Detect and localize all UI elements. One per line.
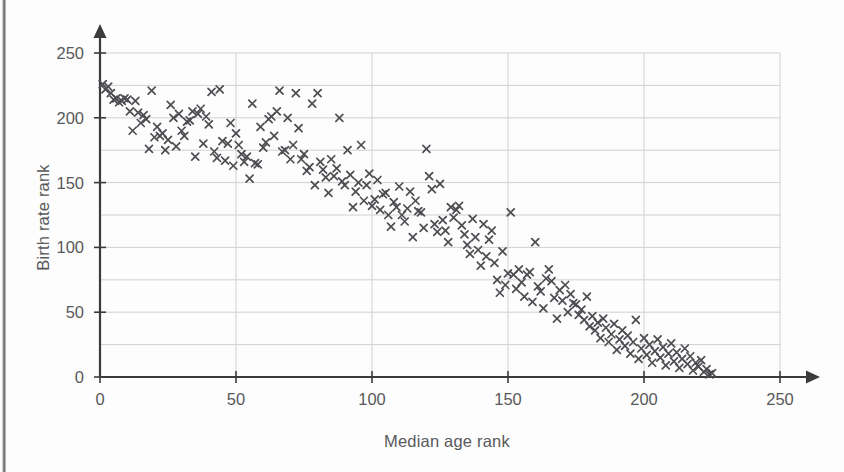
data-point-marker bbox=[472, 234, 479, 241]
data-points bbox=[99, 81, 715, 378]
data-point-marker bbox=[461, 231, 468, 238]
data-point-marker bbox=[352, 188, 359, 195]
data-point-marker bbox=[192, 153, 199, 160]
y-tick-label: 200 bbox=[56, 109, 84, 127]
data-point-marker bbox=[347, 171, 354, 178]
y-axis-title: Birth rate rank bbox=[34, 143, 53, 293]
data-point-marker bbox=[621, 342, 628, 349]
data-point-marker bbox=[632, 316, 639, 323]
data-point-marker bbox=[483, 253, 490, 260]
data-point-marker bbox=[445, 239, 452, 246]
data-point-marker bbox=[681, 345, 688, 352]
data-point-marker bbox=[317, 158, 324, 165]
data-point-marker bbox=[401, 218, 408, 225]
data-point-marker bbox=[306, 164, 313, 171]
data-point-marker bbox=[200, 140, 207, 147]
data-point-marker bbox=[167, 101, 174, 108]
data-point-marker bbox=[213, 154, 220, 161]
data-point-marker bbox=[227, 119, 234, 126]
data-point-marker bbox=[458, 222, 465, 229]
axis-ticks bbox=[94, 53, 780, 383]
y-tick-label: 50 bbox=[66, 303, 84, 321]
data-point-marker bbox=[662, 362, 669, 369]
data-point-marker bbox=[322, 174, 329, 181]
data-point-marker bbox=[148, 87, 155, 94]
data-point-marker bbox=[488, 227, 495, 234]
gridlines bbox=[100, 53, 780, 377]
data-point-marker bbox=[409, 234, 416, 241]
data-point-marker bbox=[396, 183, 403, 190]
data-point-marker bbox=[627, 350, 634, 357]
data-point-marker bbox=[426, 173, 433, 180]
x-tick-label: 250 bbox=[766, 390, 794, 408]
data-point-marker bbox=[485, 236, 492, 243]
data-point-marker bbox=[431, 221, 438, 228]
x-tick-label: 100 bbox=[358, 390, 386, 408]
x-tick-label: 0 bbox=[95, 390, 104, 408]
data-point-marker bbox=[165, 136, 172, 143]
data-point-marker bbox=[434, 228, 441, 235]
data-point-marker bbox=[540, 305, 547, 312]
data-point-marker bbox=[491, 259, 498, 266]
data-point-marker bbox=[657, 354, 664, 361]
data-point-marker bbox=[477, 262, 484, 269]
data-point-marker bbox=[314, 90, 321, 97]
data-point-marker bbox=[456, 202, 463, 209]
data-point-marker bbox=[287, 156, 294, 163]
data-point-marker bbox=[635, 355, 642, 362]
data-point-marker bbox=[526, 269, 533, 276]
y-tick-label: 0 bbox=[75, 368, 84, 386]
data-point-marker bbox=[211, 148, 218, 155]
y-tick-label: 100 bbox=[56, 238, 84, 256]
data-point-marker bbox=[126, 108, 133, 115]
data-point-marker bbox=[360, 197, 367, 204]
data-point-marker bbox=[216, 86, 223, 93]
data-point-marker bbox=[521, 293, 528, 300]
data-point-marker bbox=[222, 157, 229, 164]
data-point-marker bbox=[668, 340, 675, 347]
x-tick-label: 200 bbox=[630, 390, 658, 408]
data-point-marker bbox=[295, 125, 302, 132]
data-point-marker bbox=[208, 88, 215, 95]
data-point-marker bbox=[499, 248, 506, 255]
data-point-marker bbox=[246, 175, 253, 182]
data-point-marker bbox=[290, 142, 297, 149]
data-point-marker bbox=[423, 145, 430, 152]
data-point-marker bbox=[608, 331, 615, 338]
data-point-marker bbox=[132, 97, 139, 104]
x-tick-label: 50 bbox=[227, 390, 245, 408]
data-point-marker bbox=[553, 315, 560, 322]
y-tick-label: 250 bbox=[56, 44, 84, 62]
data-point-marker bbox=[466, 250, 473, 257]
data-point-marker bbox=[611, 320, 618, 327]
data-point-marker bbox=[439, 217, 446, 224]
data-point-marker bbox=[583, 293, 590, 300]
data-point-marker bbox=[676, 364, 683, 371]
data-point-marker bbox=[325, 189, 332, 196]
data-point-marker bbox=[529, 298, 536, 305]
data-point-marker bbox=[320, 166, 327, 173]
data-point-marker bbox=[328, 156, 335, 163]
data-point-marker bbox=[480, 221, 487, 228]
data-point-marker bbox=[309, 100, 316, 107]
x-axis-title: Median age rank bbox=[384, 432, 510, 451]
data-point-marker bbox=[442, 227, 449, 234]
y-tick-label: 150 bbox=[56, 174, 84, 192]
data-point-marker bbox=[271, 132, 278, 139]
data-point-marker bbox=[428, 186, 435, 193]
data-point-marker bbox=[249, 100, 256, 107]
x-tick-label: 150 bbox=[494, 390, 522, 408]
data-point-marker bbox=[613, 346, 620, 353]
chart-page: 050100150200250050100150200250 Median ag… bbox=[0, 0, 844, 472]
data-point-marker bbox=[407, 188, 414, 195]
data-point-marker bbox=[665, 350, 672, 357]
data-point-marker bbox=[545, 266, 552, 273]
data-point-marker bbox=[276, 87, 283, 94]
data-point-marker bbox=[173, 143, 180, 150]
data-point-marker bbox=[496, 289, 503, 296]
data-point-marker bbox=[412, 197, 419, 204]
x-axis-arrowhead bbox=[806, 371, 820, 384]
data-point-marker bbox=[515, 266, 522, 273]
data-point-marker bbox=[437, 180, 444, 187]
data-point-marker bbox=[257, 123, 264, 130]
